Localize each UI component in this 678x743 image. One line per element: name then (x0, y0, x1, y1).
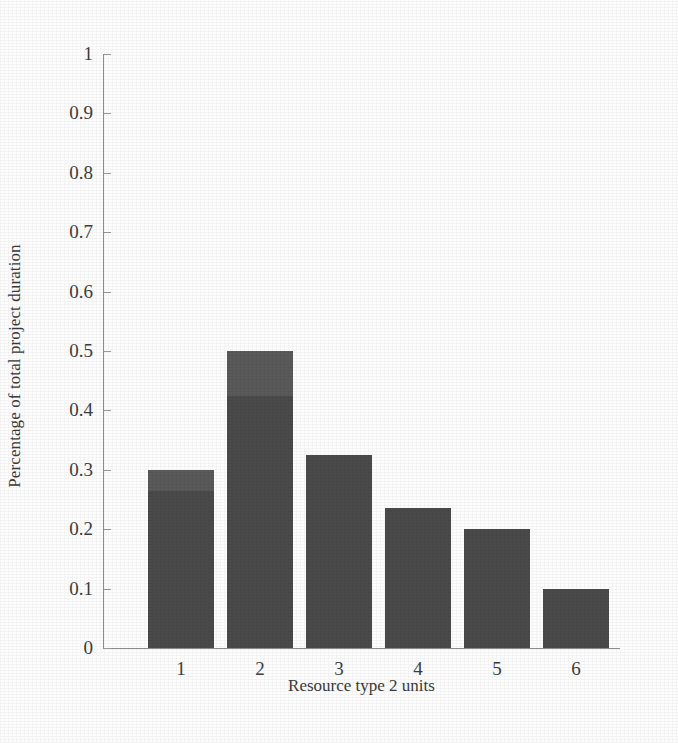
y-tick-mark (104, 113, 111, 114)
y-tick-mark (104, 232, 111, 233)
y-tick-label: 1 (84, 43, 94, 65)
bar (227, 351, 293, 648)
y-tick-label: 0.5 (69, 340, 93, 362)
y-tick-mark (104, 173, 111, 174)
y-tick-mark (104, 470, 111, 471)
y-tick-mark (104, 410, 111, 411)
y-tick-label: 0.9 (69, 102, 93, 124)
y-tick-label: 0.7 (69, 221, 93, 243)
y-tick-mark (104, 529, 111, 530)
y-tick-mark (104, 648, 111, 649)
y-axis-title: Percentage of total project duration (0, 69, 30, 663)
y-tick-mark (104, 54, 111, 55)
bar-chart-figure: Percentage of total project duration 00.… (0, 0, 678, 743)
y-tick-mark (104, 292, 111, 293)
bar (306, 455, 372, 648)
x-axis-title: Resource type 2 units (103, 676, 620, 696)
y-tick-mark (104, 351, 111, 352)
y-tick-label: 0.8 (69, 162, 93, 184)
y-tick-label: 0.1 (69, 578, 93, 600)
y-tick-mark (104, 589, 111, 590)
bar (464, 529, 530, 648)
bar (148, 470, 214, 648)
bar (385, 508, 451, 648)
y-tick-label: 0.3 (69, 459, 93, 481)
y-tick-label: 0.2 (69, 518, 93, 540)
plot-area: 00.10.20.30.40.50.60.70.80.91 123456 (103, 54, 620, 648)
x-axis-line (103, 648, 620, 649)
y-tick-label: 0.4 (69, 399, 93, 421)
bar (543, 589, 609, 648)
y-tick-label: 0 (84, 637, 94, 659)
bar-upper-segment (148, 470, 214, 491)
bar-upper-segment (227, 351, 293, 396)
y-tick-label: 0.6 (69, 281, 93, 303)
